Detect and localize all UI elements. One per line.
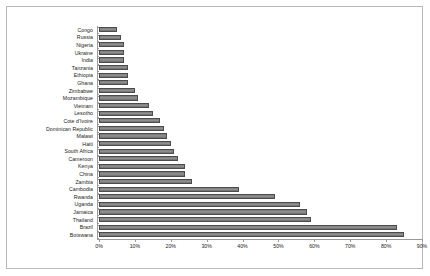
bar-row: Vietnam xyxy=(21,102,422,110)
bar-track xyxy=(97,87,422,95)
bar-row: Lesotho xyxy=(21,110,422,118)
category-label: Thailand xyxy=(21,217,97,223)
x-axis-tick-label: 30% xyxy=(201,243,211,249)
bar-track xyxy=(97,178,422,186)
category-label: South Africa xyxy=(21,148,97,154)
category-label: Haiti xyxy=(21,141,97,147)
bar-row: China xyxy=(21,170,422,178)
bar xyxy=(99,27,117,32)
bar-row: Mozambique xyxy=(21,94,422,102)
bar-row: South Africa xyxy=(21,148,422,156)
x-axis-tick-label: 0% xyxy=(95,243,103,249)
bar xyxy=(99,225,397,230)
category-label: Mozambique xyxy=(21,95,97,101)
chart-screenshot: CongoRussiaNigeriaUkraineIndiaTanzaniaEt… xyxy=(0,0,430,276)
bar-row: Russia xyxy=(21,34,422,42)
x-axis-tick-label: 80% xyxy=(381,243,391,249)
bar xyxy=(99,35,121,40)
bar-row: Cote d'Ivoire xyxy=(21,117,422,125)
bar-row: Haiti xyxy=(21,140,422,148)
category-label: Russia xyxy=(21,34,97,40)
bar xyxy=(99,42,124,47)
bar-track xyxy=(97,132,422,140)
x-axis-tick-label: 50% xyxy=(273,243,283,249)
bar xyxy=(99,73,128,78)
x-axis-tick xyxy=(135,239,136,242)
x-axis-tick-label: 70% xyxy=(345,243,355,249)
x-axis-tick-label: 20% xyxy=(166,243,176,249)
plot-area: CongoRussiaNigeriaUkraineIndiaTanzaniaEt… xyxy=(21,21,422,268)
bar xyxy=(99,133,167,138)
category-label: Brazil xyxy=(21,224,97,230)
bar xyxy=(99,171,185,176)
category-label: China xyxy=(21,171,97,177)
x-axis-tick-label: 10% xyxy=(130,243,140,249)
bar xyxy=(99,194,275,199)
category-label: Zambia xyxy=(21,179,97,185)
x-axis-tick xyxy=(278,239,279,242)
category-label: Ethiopia xyxy=(21,72,97,78)
category-label: Rwanda xyxy=(21,194,97,200)
category-label: Tanzania xyxy=(21,65,97,71)
bar-track xyxy=(97,125,422,133)
bar-track xyxy=(97,34,422,42)
bar-track xyxy=(97,163,422,171)
category-label: Botswana xyxy=(21,232,97,238)
x-axis-tick xyxy=(422,239,423,242)
bar-track xyxy=(97,94,422,102)
x-axis-tick-label: 90% xyxy=(417,243,427,249)
x-axis-tick xyxy=(314,239,315,242)
bar-row: Jamaica xyxy=(21,208,422,216)
bar xyxy=(99,118,160,123)
bar-track xyxy=(97,117,422,125)
bar xyxy=(99,202,300,207)
x-axis-tick xyxy=(350,239,351,242)
bar-row: Zimbabwe xyxy=(21,87,422,95)
category-label: Zimbabwe xyxy=(21,88,97,94)
x-axis-tick xyxy=(171,239,172,242)
bar xyxy=(99,149,174,154)
bar-track xyxy=(97,148,422,156)
bar xyxy=(99,95,138,100)
x-axis-line xyxy=(97,239,422,240)
bar xyxy=(99,88,135,93)
category-label: Malawi xyxy=(21,133,97,139)
bar-row: Uganda xyxy=(21,201,422,209)
category-label: Uganda xyxy=(21,201,97,207)
bar xyxy=(99,164,185,169)
bar xyxy=(99,217,311,222)
bar-track xyxy=(97,26,422,34)
bar-track xyxy=(97,155,422,163)
bar xyxy=(99,80,128,85)
category-label: Kenya xyxy=(21,163,97,169)
bar xyxy=(99,65,128,70)
x-axis-tick xyxy=(243,239,244,242)
bar xyxy=(99,179,192,184)
category-label: Nigeria xyxy=(21,42,97,48)
bar-row: Thailand xyxy=(21,216,422,224)
bar-track xyxy=(97,201,422,209)
bar-track xyxy=(97,102,422,110)
bar-row: Ghana xyxy=(21,79,422,87)
bar xyxy=(99,126,164,131)
category-label: Cambodia xyxy=(21,186,97,192)
bar xyxy=(99,187,239,192)
category-label: Vietnam xyxy=(21,103,97,109)
bar-row: Zambia xyxy=(21,178,422,186)
bar xyxy=(99,209,307,214)
bar-track xyxy=(97,64,422,72)
bar-track xyxy=(97,72,422,80)
category-label: Cote d'Ivoire xyxy=(21,118,97,124)
category-label: India xyxy=(21,57,97,63)
bar-track xyxy=(97,110,422,118)
bar xyxy=(99,141,171,146)
bar-row: Ukraine xyxy=(21,49,422,57)
bar-row: Cambodia xyxy=(21,185,422,193)
category-label: Jamaica xyxy=(21,209,97,215)
figure-frame: CongoRussiaNigeriaUkraineIndiaTanzaniaEt… xyxy=(6,6,423,269)
x-axis-tick xyxy=(207,239,208,242)
x-axis-tick-label: 40% xyxy=(237,243,247,249)
bar-track xyxy=(97,140,422,148)
bar-row: Congo xyxy=(21,26,422,34)
x-axis-tick-label: 60% xyxy=(309,243,319,249)
